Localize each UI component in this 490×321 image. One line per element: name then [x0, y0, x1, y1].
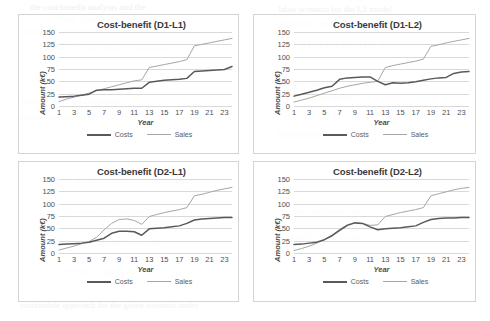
legend-swatch-icon	[323, 134, 347, 136]
series-line-costs	[294, 217, 469, 244]
y-tick-label: 125	[42, 187, 55, 196]
y-tick-label: 0	[286, 249, 290, 258]
legend-label: Sales	[175, 278, 193, 285]
x-tick-label: 23	[457, 108, 465, 117]
plot-area: Amount (k€) 0255075100125150 13579111315…	[19, 179, 234, 301]
y-tick-label: 25	[47, 89, 55, 98]
y-tick-label: 75	[282, 212, 290, 221]
gridline	[294, 253, 469, 254]
legend-label: Sales	[411, 131, 429, 138]
plot-canvas	[59, 179, 232, 253]
x-tick-label: 13	[381, 255, 389, 264]
y-axis-label: Amount (k€)	[38, 218, 47, 262]
x-tick-label: 5	[87, 255, 91, 264]
x-axis-label: Year	[294, 265, 469, 274]
y-tick-label: 25	[282, 236, 290, 245]
gridline	[294, 106, 469, 107]
x-tick-label: 13	[381, 108, 389, 117]
x-tick-label: 15	[160, 108, 168, 117]
x-tick-label: 17	[412, 255, 420, 264]
y-axis-label: Amount (k€)	[273, 71, 282, 115]
cost-benefit-chart-grid: Cost-benefit (D1-L1) Amount (k€) 0255075…	[0, 0, 490, 321]
x-tick-label: 21	[442, 255, 450, 264]
y-tick-label: 75	[47, 212, 55, 221]
x-tick-label: 11	[130, 108, 138, 117]
legend-item-sales[interactable]: Sales	[147, 278, 193, 285]
plot-canvas	[294, 32, 469, 106]
x-tick-label: 11	[366, 108, 374, 117]
series-layer	[59, 32, 232, 106]
chart-title: Cost-benefit (D1-L1)	[19, 19, 238, 30]
x-axis-label: Year	[59, 265, 232, 274]
x-tick-label: 17	[175, 108, 183, 117]
y-tick-label: 125	[277, 187, 290, 196]
y-tick-label: 50	[282, 77, 290, 86]
y-tick-label: 0	[51, 102, 55, 111]
legend-item-sales[interactable]: Sales	[147, 131, 193, 138]
legend-swatch-icon	[147, 281, 171, 282]
legend-swatch-icon	[383, 134, 407, 135]
legend-label: Costs	[351, 278, 369, 285]
legend-item-costs[interactable]: Costs	[87, 131, 133, 138]
x-tick-label: 23	[220, 255, 228, 264]
series-layer	[294, 32, 469, 106]
x-tick-label: 9	[117, 255, 121, 264]
plot-area: Amount (k€) 0255075100125150 13579111315…	[19, 32, 234, 153]
y-tick-label: 0	[51, 249, 55, 258]
y-axis-label: Amount (k€)	[273, 218, 282, 262]
y-tick-label: 125	[42, 40, 55, 49]
gridline	[59, 106, 232, 107]
chart-title: Cost-benefit (D1-L2)	[254, 19, 475, 30]
chart-legend: CostsSales	[19, 131, 234, 138]
x-tick-label: 15	[396, 255, 404, 264]
y-tick-label: 75	[282, 65, 290, 74]
legend-label: Sales	[411, 278, 429, 285]
chart-panel-d1-l2: Cost-benefit (D1-L2) Amount (k€) 0255075…	[245, 0, 490, 158]
y-tick-label: 50	[282, 224, 290, 233]
x-tick-label: 1	[292, 255, 296, 264]
x-tick-label: 21	[442, 108, 450, 117]
legend-item-sales[interactable]: Sales	[383, 278, 429, 285]
legend-item-sales[interactable]: Sales	[383, 131, 429, 138]
chart-panel-d2-l2: Cost-benefit (D2-L2) Amount (k€) 0255075…	[245, 158, 490, 316]
x-tick-label: 5	[322, 108, 326, 117]
x-tick-label: 7	[338, 108, 342, 117]
series-layer	[59, 179, 232, 253]
legend-label: Costs	[351, 131, 369, 138]
y-tick-label: 50	[47, 224, 55, 233]
y-tick-label: 50	[47, 77, 55, 86]
series-layer	[294, 179, 469, 253]
x-tick-label: 15	[396, 108, 404, 117]
x-tick-label: 19	[190, 255, 198, 264]
chart-title: Cost-benefit (D2-L2)	[254, 166, 475, 177]
legend-item-costs[interactable]: Costs	[87, 278, 133, 285]
x-tick-label: 19	[427, 108, 435, 117]
x-tick-label: 1	[57, 108, 61, 117]
y-tick-label: 100	[277, 52, 290, 61]
series-line-costs	[59, 217, 232, 244]
x-tick-label: 5	[322, 255, 326, 264]
x-tick-label: 17	[175, 255, 183, 264]
legend-item-costs[interactable]: Costs	[323, 278, 369, 285]
series-line-costs	[59, 67, 232, 98]
x-tick-label: 13	[145, 108, 153, 117]
series-line-sales	[294, 38, 469, 102]
plot-area: Amount (k€) 0255075100125150 13579111315…	[254, 32, 471, 153]
x-tick-label: 3	[72, 108, 76, 117]
x-tick-label: 23	[220, 108, 228, 117]
x-axis-label: Year	[59, 118, 232, 127]
legend-swatch-icon	[147, 134, 171, 135]
y-tick-label: 25	[47, 236, 55, 245]
legend-label: Costs	[115, 131, 133, 138]
x-tick-label: 21	[205, 108, 213, 117]
x-tick-label: 17	[412, 108, 420, 117]
x-tick-label: 5	[87, 108, 91, 117]
y-tick-label: 0	[286, 102, 290, 111]
x-tick-label: 7	[102, 255, 106, 264]
chart-legend: CostsSales	[254, 131, 471, 138]
chart-panel-d1-l1: Cost-benefit (D1-L1) Amount (k€) 0255075…	[0, 0, 245, 158]
chart-title: Cost-benefit (D2-L1)	[19, 166, 238, 177]
legend-item-costs[interactable]: Costs	[323, 131, 369, 138]
plot-canvas	[59, 32, 232, 106]
x-tick-label: 9	[353, 255, 357, 264]
